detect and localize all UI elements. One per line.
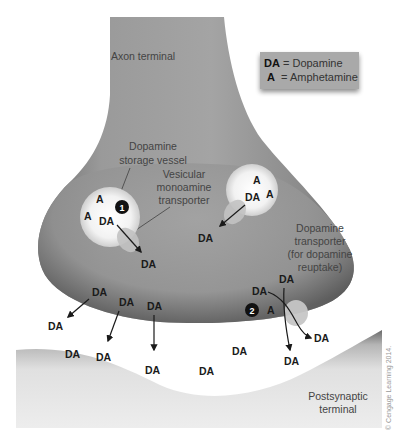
dopamine-molecule: DA — [245, 191, 261, 203]
release-arrow — [108, 311, 119, 341]
amphetamine-molecule: A — [266, 188, 274, 200]
vmat-label-2: monoamine — [157, 181, 212, 193]
dat-label-2: transporter — [295, 235, 346, 247]
dopamine-molecule: DA — [279, 273, 295, 285]
legend-item-amphetamine: A = Amphetamine — [267, 71, 358, 83]
dopamine-molecule: DA — [96, 351, 112, 363]
dopamine-molecule: DA — [147, 300, 163, 312]
dopamine-molecule: DA — [48, 320, 64, 332]
postsynaptic-label-1: Postsynaptic — [308, 390, 368, 402]
postsynaptic-label-2: terminal — [319, 403, 356, 415]
dopamine-molecule: DA — [314, 332, 330, 344]
dat-label-3: (for dopamine — [288, 248, 353, 260]
release-arrow — [68, 299, 89, 317]
dopamine-molecule: DA — [199, 365, 215, 377]
amphetamine-molecule: A — [267, 304, 275, 316]
dat-label-1: Dopamine — [296, 222, 344, 234]
dopamine-molecule: DA — [92, 286, 108, 298]
amphetamine-molecule: A — [84, 210, 92, 222]
dopamine-molecule: DA — [198, 232, 214, 244]
dopamine-molecule: DA — [65, 348, 81, 360]
dopamine-molecule: DA — [145, 364, 161, 376]
dat-label-4: reuptake) — [298, 261, 342, 273]
legend-item-dopamine: DA = Dopamine — [264, 57, 343, 69]
dopamine-molecule: DA — [232, 345, 248, 357]
dopamine-molecule: DA — [252, 285, 268, 297]
step-2-number: 2 — [249, 306, 254, 316]
step-1-number: 1 — [119, 203, 124, 213]
dopamine-molecule: DA — [141, 258, 157, 270]
amphetamine-molecule: A — [253, 174, 261, 186]
amphetamine-molecule: A — [96, 193, 104, 205]
axon-terminal-label: Axon terminal — [111, 50, 175, 62]
dopamine-molecule: DA — [99, 215, 115, 227]
storage-vessel-label-2: storage vessel — [119, 154, 187, 166]
copyright-text: © Cengage Learning 2014. — [385, 346, 393, 430]
dopamine-molecule: DA — [284, 355, 300, 367]
dopamine-molecule: DA — [119, 296, 135, 308]
synapse-diagram: Axon terminal Dopamine storage vessel Ve… — [0, 0, 405, 445]
vmat-label-3: transporter — [159, 194, 210, 206]
storage-vessel-label-1: Dopamine — [129, 140, 177, 152]
vmat-label-1: Vesicular — [163, 168, 206, 180]
